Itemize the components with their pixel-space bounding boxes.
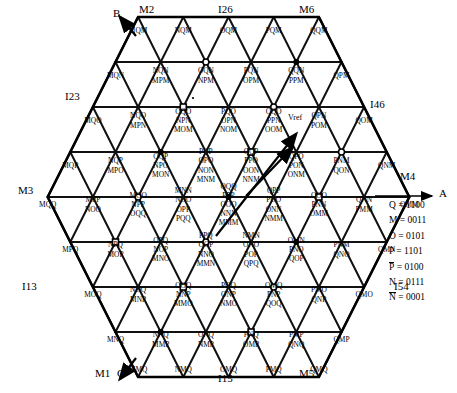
state-label: OQN (198, 66, 215, 75)
legend-symbol: N (389, 292, 396, 303)
state-label: QPN (312, 111, 327, 120)
state-label: PQQ (176, 214, 191, 223)
state-label: NMQ (175, 365, 193, 374)
state-label: OQO (175, 107, 192, 116)
state-label: OMQ (265, 281, 283, 290)
state-label: MNQ (107, 335, 125, 344)
state-label: OOQ (175, 281, 192, 290)
state-label: NON (198, 166, 215, 175)
state-label: NQP (108, 156, 123, 165)
state-label: PPN (267, 116, 281, 125)
legend-value: = 0100 (394, 262, 423, 272)
state-label: QON (333, 166, 350, 175)
state-label: PPQ (199, 231, 213, 240)
state-label: QOO (311, 191, 328, 200)
state-label: ONO (243, 240, 260, 249)
state-label: QNP (312, 295, 327, 304)
state-label: POM (311, 121, 327, 130)
state-label: QQP (244, 147, 259, 156)
state-label: QNM (378, 161, 396, 170)
outer-label-m6: M6 (299, 3, 315, 15)
state-label: NQN (153, 66, 170, 75)
state-label: NOP (153, 245, 168, 254)
state-label: PNQ (244, 330, 259, 339)
state-label: QOQ (266, 299, 283, 308)
state-label: NPQ (108, 240, 123, 249)
outer-label-m5: M5 (299, 367, 315, 379)
space-vector-diagram: MQMNQMOQMPQMQQMMQNNQNMPMOQNNPMPQNOPMQQNP… (0, 0, 457, 393)
vref-label: Vref (288, 113, 303, 122)
state-label: OOO (220, 200, 237, 209)
state-label: NPN (176, 116, 191, 125)
legend-entry: O = 0101 (389, 229, 457, 244)
state-label: NPM (198, 76, 214, 85)
state-label: NNQ (153, 330, 170, 339)
legend-symbol: O (389, 231, 396, 241)
outer-label-i15: I15 (218, 372, 233, 384)
legend-value: = 1101 (394, 246, 423, 256)
outer-label-b: B (113, 7, 120, 19)
state-label: QPQ (244, 259, 259, 268)
legend-symbol: Q (389, 200, 396, 210)
state-label: MQO (84, 116, 102, 125)
outer-label-m1: M1 (95, 367, 110, 379)
legend-entry: P = 0100 (389, 260, 457, 275)
state-label: PQP (199, 147, 213, 156)
outer-label-i13: I13 (22, 280, 37, 292)
state-label: MQN (107, 71, 125, 80)
state-label: OPN (221, 116, 236, 125)
state-label: NNO (198, 250, 215, 259)
state-label: MMN (197, 259, 216, 268)
outer-label-m3: M3 (18, 184, 34, 196)
state-label: QOP (289, 254, 304, 263)
state-label: QNN (356, 195, 373, 204)
legend-value: = 0101 (396, 231, 425, 241)
state-label: PMO (311, 285, 328, 294)
outer-label-m2: M2 (139, 3, 154, 15)
state-label: NQM (175, 26, 193, 35)
state-label: ONN (266, 205, 283, 214)
state-label: QNO (333, 250, 350, 259)
state-label: OPP (177, 205, 191, 214)
state-label: OMM (310, 209, 329, 218)
state-label: MNM (197, 175, 216, 184)
state-label: OQM (220, 26, 238, 35)
state-label: MNN (175, 186, 193, 195)
state-label: MPP (86, 195, 101, 204)
legend-value: = 1100 (396, 200, 425, 210)
state-label: QQQ (220, 182, 237, 191)
outer-label-m4: M4 (400, 170, 416, 182)
state-label: ONM (288, 170, 306, 179)
state-label: MPN (130, 121, 147, 130)
state-label: NNP (176, 290, 191, 299)
state-label: OON (243, 166, 260, 175)
state-label: MNP (130, 295, 146, 304)
legend-value: = 0111 (396, 277, 424, 287)
state-label: PQN (244, 66, 259, 75)
state-label: PMM (355, 205, 373, 214)
state-label: QOM (355, 116, 373, 125)
outer-label-i46: I46 (370, 98, 385, 110)
state-label: ONP (221, 290, 236, 299)
legend-entry: M = 0011 (389, 213, 457, 228)
state-label: PQM (266, 26, 282, 35)
legend-entry: Q = 1100 (389, 198, 457, 213)
state-label: MOQ (84, 290, 102, 299)
state-label: POO (266, 195, 281, 204)
state-label: PNP (267, 290, 281, 299)
state-label: MOP (107, 250, 123, 259)
state-label: MPQ (62, 245, 79, 254)
state-label: OMP (243, 340, 259, 349)
state-label: MMQ (129, 365, 148, 374)
state-label: QPO (289, 152, 304, 161)
state-label: OQP (153, 152, 168, 161)
outer-label-i23: I23 (65, 90, 80, 102)
state-label: NOO (175, 195, 192, 204)
state-label: PNM (333, 240, 349, 249)
state-label: NQO (130, 111, 147, 120)
state-label: PMP (289, 330, 304, 339)
state-label: NMN (242, 231, 260, 240)
state-label: PPP (222, 191, 234, 200)
state-label: OOM (265, 125, 283, 134)
state-label: ONQ (198, 330, 215, 339)
